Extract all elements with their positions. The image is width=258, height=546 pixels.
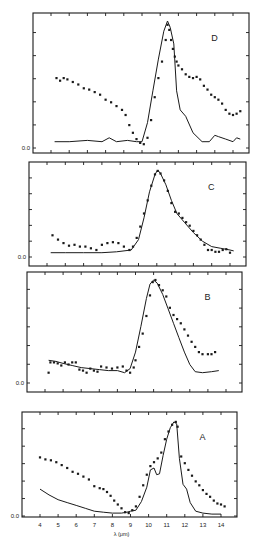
data-point xyxy=(196,234,198,236)
data-point xyxy=(160,452,162,454)
data-point xyxy=(128,124,130,126)
data-point xyxy=(217,99,219,101)
data-point xyxy=(146,474,148,476)
data-point xyxy=(39,456,41,458)
data-point xyxy=(117,242,119,244)
data-point xyxy=(157,77,159,79)
data-point xyxy=(50,459,52,461)
data-point xyxy=(88,89,90,91)
data-point xyxy=(99,94,101,96)
data-point xyxy=(113,500,115,502)
data-point xyxy=(99,487,101,489)
data-point xyxy=(62,242,64,244)
data-point xyxy=(68,245,70,247)
data-point xyxy=(210,353,212,355)
data-point xyxy=(77,83,79,85)
data-point xyxy=(194,346,196,348)
data-point xyxy=(239,110,241,112)
data-point xyxy=(168,29,170,31)
data-point xyxy=(55,461,57,463)
data-point xyxy=(78,369,80,371)
data-point xyxy=(145,315,147,317)
data-point xyxy=(79,246,81,248)
data-point xyxy=(211,249,213,251)
data-point xyxy=(48,372,50,374)
data-point xyxy=(195,480,197,482)
data-point xyxy=(198,351,200,353)
data-point xyxy=(177,64,179,66)
data-point xyxy=(236,113,238,115)
data-point xyxy=(105,366,107,368)
data-point xyxy=(185,221,187,223)
data-point xyxy=(229,252,231,254)
data-point xyxy=(95,249,97,251)
data-point xyxy=(180,322,182,324)
data-point xyxy=(139,142,141,144)
data-point xyxy=(196,76,198,78)
x-tick-label: 5 xyxy=(56,522,60,528)
data-point xyxy=(122,365,124,367)
data-point xyxy=(154,96,156,98)
data-point xyxy=(177,426,179,428)
data-point xyxy=(55,77,57,79)
data-point xyxy=(187,469,189,471)
data-point xyxy=(228,113,230,115)
data-point xyxy=(121,109,123,111)
data-point xyxy=(66,78,68,80)
data-point xyxy=(161,61,163,63)
panel-label: A xyxy=(200,432,206,442)
data-point xyxy=(191,341,193,343)
data-point xyxy=(73,244,75,246)
data-point xyxy=(143,143,145,145)
data-point xyxy=(157,170,159,172)
data-point xyxy=(181,217,183,219)
data-point xyxy=(174,56,176,58)
data-point xyxy=(218,251,220,253)
data-point xyxy=(72,81,74,83)
data-point xyxy=(192,230,194,232)
data-point xyxy=(105,99,107,101)
data-point xyxy=(206,89,208,91)
data-point xyxy=(163,179,165,181)
data-point xyxy=(191,475,193,477)
x-axis-label: λ (μm) xyxy=(114,531,130,537)
data-point xyxy=(93,370,95,372)
data-point xyxy=(132,132,134,134)
data-point xyxy=(150,119,152,121)
x-tick-label: 10 xyxy=(145,522,152,528)
data-point xyxy=(166,24,168,26)
data-point xyxy=(110,495,112,497)
data-point xyxy=(209,496,211,498)
data-point xyxy=(210,94,212,96)
data-point xyxy=(207,353,209,355)
data-point xyxy=(124,511,126,513)
data-point xyxy=(86,372,88,374)
zero-label: 0.0 xyxy=(16,380,25,386)
x-tick-label: 14 xyxy=(218,522,225,528)
data-point xyxy=(106,491,108,493)
data-point xyxy=(181,68,183,70)
data-point xyxy=(102,488,104,490)
data-point xyxy=(128,512,130,514)
data-point xyxy=(71,361,73,363)
data-point xyxy=(221,103,223,105)
data-point xyxy=(142,333,144,335)
data-point xyxy=(192,77,194,79)
data-point xyxy=(149,294,151,296)
panel-frame xyxy=(27,272,242,392)
data-point xyxy=(59,80,61,82)
data-point xyxy=(143,212,145,214)
data-point xyxy=(96,371,98,373)
data-point xyxy=(139,226,141,228)
data-point xyxy=(165,295,167,297)
data-point xyxy=(232,114,234,116)
data-point xyxy=(167,190,169,192)
data-point xyxy=(187,335,189,337)
data-point xyxy=(216,502,218,504)
data-point xyxy=(152,281,154,283)
data-point xyxy=(157,457,159,459)
stacked-spectra-chart: 0.0D 0.0C 0.0B 0.0A4567891011121314λ (μm… xyxy=(0,0,258,546)
data-point xyxy=(135,138,137,140)
data-point xyxy=(142,484,144,486)
zero-label: 0.0 xyxy=(22,145,31,151)
